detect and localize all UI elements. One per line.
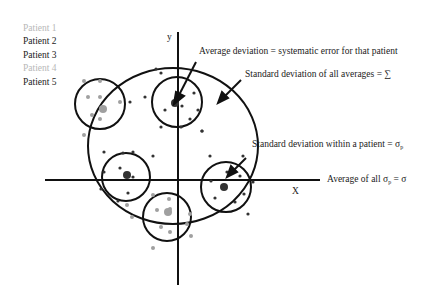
patient-4-dots	[125, 193, 193, 250]
x-axis-label: X	[292, 186, 299, 196]
annotation-average-sigma: Average of all σp = σ	[327, 174, 406, 185]
annotation-average-deviation: Average deviation = systematic error for…	[199, 46, 398, 56]
patient-1-circle	[75, 79, 125, 129]
annotation-sd-within-sub: p	[400, 144, 403, 150]
patient-3-dots	[99, 100, 154, 202]
population-circle	[88, 68, 258, 224]
y-axis-label: y	[167, 32, 172, 42]
patient-4-circle	[143, 193, 191, 241]
annotation-sd-averages: Standard deviation of all averages = ∑	[245, 69, 391, 79]
annotation-average-sigma-suffix: = σ	[391, 174, 406, 184]
annotation-sd-within: Standard deviation within a patient = σp	[252, 139, 403, 150]
annotation-sd-within-text: Standard deviation within a patient = σ	[252, 139, 400, 149]
annotation-average-sigma-text: Average of all σ	[327, 174, 388, 184]
